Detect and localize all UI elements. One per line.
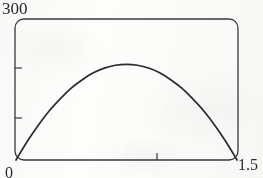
plot-frame: [15, 19, 238, 160]
plot-area: [0, 0, 263, 178]
chart-screenshot: 300 0 1.5: [0, 0, 263, 178]
y-axis-max-label: 300: [2, 0, 28, 17]
x-axis-min-label: 0: [5, 165, 13, 178]
data-curve: [16, 64, 237, 160]
x-axis-max-label: 1.5: [238, 157, 258, 173]
y-axis-ticks: [15, 68, 22, 118]
